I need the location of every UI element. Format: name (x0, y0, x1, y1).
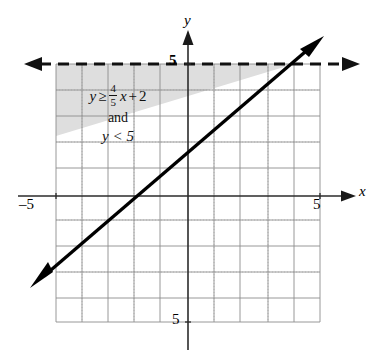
inequality-variable-x: x (120, 88, 127, 106)
solid-line-arrow-lower-left (30, 262, 53, 288)
inequality-second: y < 5 (58, 128, 178, 146)
dashed-line-arrow-left (24, 57, 42, 71)
inequality-first: y ≥ 4 5 x + 2 (58, 84, 178, 109)
inequality-lhs-variable: y (89, 88, 96, 106)
inequality-constant: 2 (139, 88, 147, 106)
x-axis-tick-label-positive-5: 5 (313, 196, 321, 213)
coordinate-plane-figure (0, 0, 384, 362)
fraction-four-fifths: 4 5 (109, 83, 117, 108)
dashed-line-arrow-right (342, 57, 360, 71)
inequality-annotation: y ≥ 4 5 x + 2 and y < 5 (58, 84, 178, 146)
x-axis-label: x (359, 183, 366, 200)
fraction-denominator: 5 (109, 97, 117, 108)
y-axis-label: y (184, 12, 191, 29)
y-axis-tick-label-negative-5: 5 (172, 311, 180, 328)
x-axis-tick-label-negative-5: –5 (19, 196, 34, 213)
fraction-numerator: 4 (109, 83, 117, 94)
y-axis-tick-label-positive-5: 5 (169, 52, 177, 69)
x-axis (18, 191, 356, 202)
inequality-relation-symbol: ≥ (98, 88, 106, 106)
inequality-plus-sign: + (129, 88, 137, 106)
inequality-conjunction: and (58, 110, 178, 127)
